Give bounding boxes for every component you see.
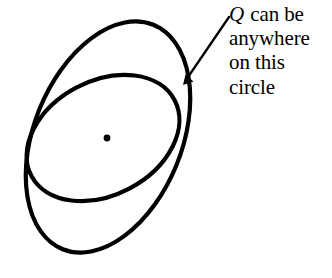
center-dot xyxy=(104,135,111,142)
inner-circle xyxy=(5,50,202,227)
outer-circle xyxy=(0,0,222,277)
point-label-q: Q xyxy=(229,2,245,26)
annotation-line-2: anywhere xyxy=(229,26,332,50)
annotation-line-4: circle xyxy=(229,75,332,99)
annotation-arrow-line xyxy=(186,17,229,80)
annotation-caption: Q can be anywhere on this circle xyxy=(229,2,332,99)
annotation-line-3: on this xyxy=(229,50,332,74)
geometry-figure: Q can be anywhere on this circle xyxy=(0,0,332,278)
annotation-line-1-rest: can be xyxy=(245,2,304,26)
annotation-line-1: Q can be xyxy=(229,2,332,26)
